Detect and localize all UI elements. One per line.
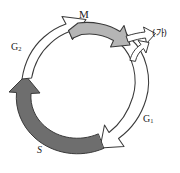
branch-label-ga: (가): [152, 29, 167, 38]
cell-cycle-diagram: M G2 S G1 (가): [0, 0, 180, 173]
phase-label-m: M: [79, 9, 89, 20]
phase-label-s: S: [37, 145, 42, 155]
phase-label-g1-subscript: 1: [150, 117, 153, 124]
s-phase-arrow: [9, 76, 104, 154]
phase-label-g1: G1: [143, 114, 153, 124]
phase-label-g2-subscript: 2: [18, 45, 21, 52]
m-phase-arrow: [69, 22, 131, 47]
phase-label-g2: G2: [11, 42, 21, 52]
cycle-arrows-graphic: [0, 0, 180, 173]
